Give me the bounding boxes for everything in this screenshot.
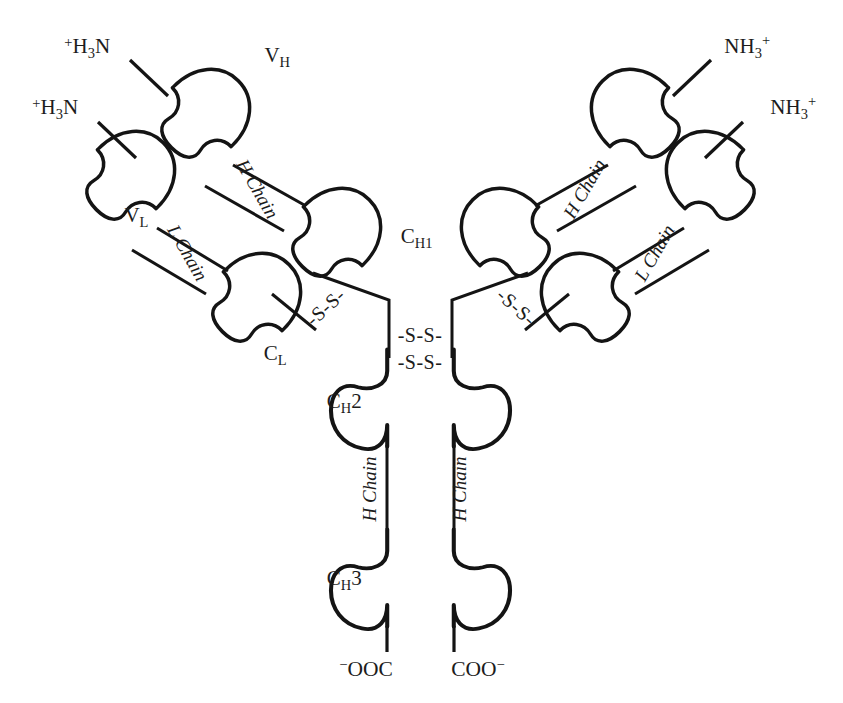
label-left-ch1-sub: H1 [415,235,433,251]
label-left-vh-main: V [264,43,279,67]
label-ch3: CH3 [290,566,388,593]
label-right-l-chain: L Chain [629,221,678,286]
nterm-right-heavy-tail [673,60,711,96]
nterm-right-light-tail [705,122,743,158]
label-left-cl: CL [227,341,313,370]
label-left-cl-main: C [264,341,278,365]
label-disulfide-left: -S-S- [301,284,349,330]
label-disulfide-hinge-lower: -S-S- [398,351,443,373]
label-fc-right-h-chain: H Chain [449,457,470,523]
label-ch2-sub: H [341,400,352,416]
label-left-ch1: CH1 [364,224,459,253]
label-left-vl-main: V [124,203,139,227]
label-ch2: CH2 [290,389,388,416]
domain-right-cl [523,235,649,361]
label-left-vl: VL [88,203,175,232]
nterm-left-light-tail [98,122,136,158]
label-ch3-num: 3 [351,566,362,590]
domain-ch2-right [454,349,510,449]
domain-right-ch1 [443,170,569,296]
label-fc-left-h-chain: H Chain [359,457,380,523]
nterm-left-heavy-tail [130,60,168,96]
label-left-vh-sub: H [280,54,291,70]
antibody-structure-svg: +H3N ⁺H₃N +H3N ⁺H₃N NH3+ NH₃⁺ NH3+ NH₃⁺ … [0,0,843,703]
label-left-vh: VH [228,43,316,72]
label-ch2-num: 2 [351,389,362,413]
label-left-l-chain: L Chain [163,220,212,285]
antibody-diagram: +H3N ⁺H₃N +H3N ⁺H₃N NH3+ NH₃⁺ NH3+ NH₃⁺ … [0,0,843,703]
label-ch3-main: C [327,566,341,590]
label-left-vl-sub: L [140,214,149,230]
label-disulfide-hinge-upper: -S-S- [398,324,443,346]
domain-right-vl [648,113,774,239]
label-left-cl-sub: L [278,352,287,368]
label-ch3-sub: H [341,577,352,593]
label-ch2-main: C [327,389,341,413]
label-left-ch1-main: C [401,224,415,248]
domain-ch3-right [454,529,510,629]
